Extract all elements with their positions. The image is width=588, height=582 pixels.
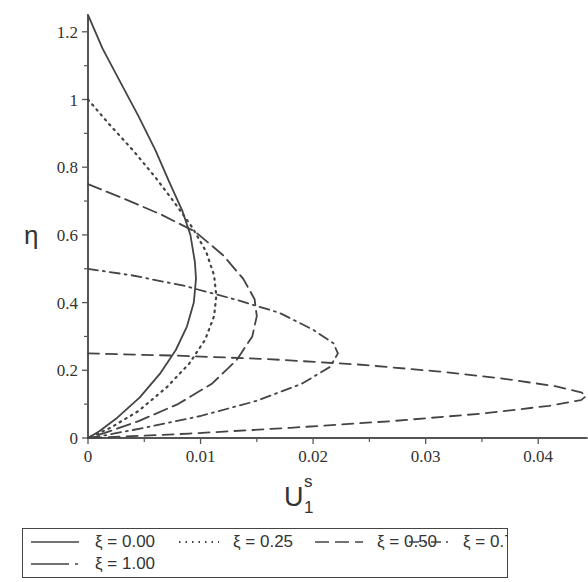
y-tick-label: 0.8 <box>57 158 78 177</box>
series-line <box>88 184 257 438</box>
svg-text:1: 1 <box>304 498 313 517</box>
y-tick-label: 0.4 <box>57 294 79 313</box>
axes: 00.010.020.030.0400.20.40.60.811.2 <box>57 15 588 466</box>
legend-label: ξ = 0.50 <box>377 532 437 551</box>
x-tick-label: 0 <box>84 447 93 466</box>
svg-text:U: U <box>284 482 304 512</box>
legend-label: ξ = 0.75 <box>463 532 507 551</box>
x-tick-label: 0.04 <box>523 447 553 466</box>
legend: ξ = 0.00ξ = 0.25ξ = 0.50ξ = 0.75ξ = 1.00 <box>22 528 508 578</box>
x-tick-label: 0.01 <box>186 447 216 466</box>
legend-entries: ξ = 0.00ξ = 0.25ξ = 0.50ξ = 0.75ξ = 1.00 <box>23 529 507 577</box>
y-tick-label: 0 <box>70 429 79 448</box>
series-line <box>88 269 338 438</box>
x-tick-label: 0.03 <box>411 447 441 466</box>
y-axis-title: η <box>24 220 38 250</box>
series-line <box>88 353 587 438</box>
y-tick-label: 1 <box>70 91 79 110</box>
legend-label: ξ = 0.25 <box>233 532 293 551</box>
y-tick-label: 0.6 <box>57 226 78 245</box>
legend-label: ξ = 0.00 <box>95 532 155 551</box>
x-tick-label: 0.02 <box>298 447 328 466</box>
y-tick-label: 1.2 <box>57 23 78 42</box>
legend-label: ξ = 1.00 <box>95 554 155 573</box>
series-line <box>88 100 216 439</box>
x-axis-title: U s 1 <box>284 472 313 517</box>
series-lines <box>88 15 587 438</box>
series-line <box>88 15 196 438</box>
chart-plot: 00.010.020.030.0400.20.40.60.811.2 η U s… <box>0 0 588 582</box>
svg-text:s: s <box>304 472 313 491</box>
y-tick-label: 0.2 <box>57 361 78 380</box>
